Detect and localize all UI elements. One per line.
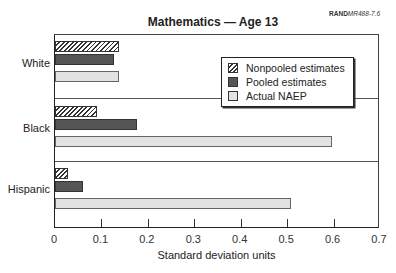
x-tick [287,219,288,227]
ref-bold: RAND [329,10,348,17]
legend-item-pooled: Pooled estimates [228,75,353,89]
x-tick-label: 0 [51,233,57,245]
chart-title: Mathematics — Age 13 [0,15,396,29]
bar-hispanic-nonpooled [55,168,68,179]
legend-item-nonpooled: Nonpooled estimates [228,61,353,75]
bar-white-actual [55,71,119,82]
category-label-white: White [22,57,50,69]
group-separator [55,161,378,162]
bar-white-nonpooled [55,41,119,52]
x-tick-label: 0.6 [325,233,340,245]
legend-label: Nonpooled estimates [246,62,345,74]
x-tick [148,219,149,227]
x-tick-label: 0.2 [139,233,154,245]
bar-hispanic-actual [55,198,291,209]
ref-italic: MR488-7.6 [348,10,380,17]
bar-black-pooled [55,119,137,130]
legend: Nonpooled estimates Pooled estimates Act… [221,57,354,107]
x-axis-label: Standard deviation units [54,249,379,261]
category-label-hispanic: Hispanic [8,183,50,195]
x-tick [241,219,242,227]
x-tick [334,219,335,227]
light-swatch-icon [228,91,238,101]
category-label-black: Black [23,122,50,134]
legend-item-actual: Actual NAEP [228,89,353,103]
legend-label: Actual NAEP [246,90,307,102]
x-tick [194,219,195,227]
dark-swatch-icon [228,77,238,87]
legend-label: Pooled estimates [246,76,327,88]
x-tick [101,219,102,227]
bar-hispanic-pooled [55,181,83,192]
x-tick-label: 0.7 [371,233,386,245]
bar-black-actual [55,136,332,147]
hatched-swatch-icon [228,63,238,73]
bar-black-nonpooled [55,106,97,117]
x-tick-label: 0.5 [278,233,293,245]
figure-reference: RANDMR488-7.6 [329,10,380,17]
x-tick-label: 0.1 [93,233,108,245]
x-tick-label: 0.3 [186,233,201,245]
bar-white-pooled [55,54,114,65]
x-tick-label: 0.4 [232,233,247,245]
